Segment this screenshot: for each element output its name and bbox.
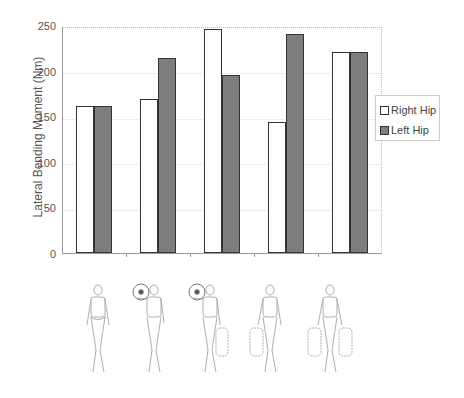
bar-right-hip <box>332 52 350 253</box>
bar-left-hip <box>94 106 112 253</box>
bar-left-hip <box>158 58 176 253</box>
legend-label: Right Hip <box>391 104 436 116</box>
walking-figure-no-load-icon <box>78 280 118 380</box>
y-tick-200: 200 <box>26 66 56 78</box>
walking-figure-two-hand-load-icon <box>302 280 362 380</box>
walking-figure-shoulder-and-hand-load-icon <box>186 280 236 380</box>
bar-right-hip <box>76 106 94 253</box>
posture-figures <box>0 280 464 398</box>
bar-left-hip <box>350 52 368 253</box>
y-tick-50: 50 <box>26 202 56 214</box>
x-tick <box>318 253 319 257</box>
bar-left-hip <box>286 34 304 253</box>
y-tick-250: 250 <box>26 20 56 32</box>
legend-item-left-hip: Left Hip <box>380 120 439 140</box>
x-tick <box>190 253 191 257</box>
bar-right-hip <box>204 29 222 253</box>
y-tick-0: 0 <box>26 248 56 260</box>
bar-right-hip <box>140 99 158 253</box>
plot-area <box>62 27 382 254</box>
legend: Right Hip Left Hip <box>375 95 440 141</box>
legend-item-right-hip: Right Hip <box>380 100 439 120</box>
legend-label: Left Hip <box>391 124 429 136</box>
right-hip-swatch-icon <box>380 106 389 115</box>
x-tick <box>254 253 255 257</box>
left-hip-swatch-icon <box>380 126 389 135</box>
x-tick <box>126 253 127 257</box>
bar-right-hip <box>268 122 286 253</box>
y-tick-100: 100 <box>26 157 56 169</box>
walking-figure-one-hand-load-icon <box>246 280 296 380</box>
y-tick-150: 150 <box>26 111 56 123</box>
bar-left-hip <box>222 75 240 253</box>
walking-figure-shoulder-load-icon <box>130 280 180 380</box>
